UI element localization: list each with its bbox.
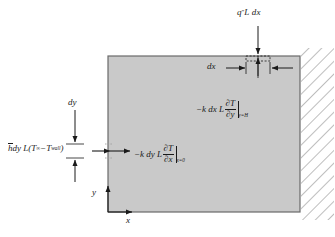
dx-label: dx	[207, 62, 216, 71]
y-axis-label: y	[92, 188, 96, 197]
heat-flux-label: q″ L dx	[237, 8, 261, 17]
control-volume-block	[108, 56, 300, 212]
convection-label: h dy L(T∞−Twall)	[8, 144, 64, 153]
dy-dimension-arrows	[66, 110, 112, 182]
x-axis-label: x	[126, 216, 130, 225]
conduction-top-label: −k dx L ∂T ∂y y=H	[196, 99, 248, 119]
wall-hatching-group	[301, 48, 334, 220]
conduction-left-label: −k dy L ∂T ∂x x=0	[134, 144, 185, 164]
heat-transfer-control-volume-figure: q″ L dx dx dy −k dx L ∂T ∂y y=H h dy L(T…	[0, 0, 335, 237]
figure-graphics	[0, 0, 335, 237]
dy-label: dy	[68, 98, 77, 107]
